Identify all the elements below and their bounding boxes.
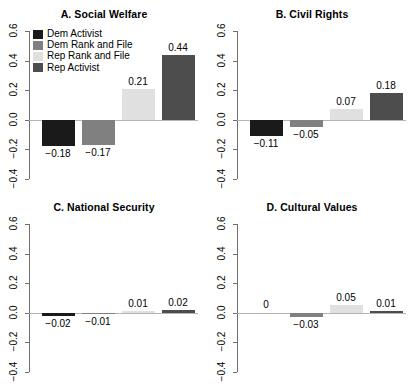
legend-label: Dem Rank and File: [47, 40, 133, 50]
y-axis-tick: [233, 283, 237, 284]
y-axis-tick: [233, 149, 237, 150]
legend-label: Dem Activist: [47, 29, 102, 39]
bar-value-label: −0.17: [77, 147, 120, 158]
legend-swatch-icon: [33, 63, 43, 72]
bar-value-label: 0.18: [365, 80, 408, 91]
y-axis-tick-label: −0.2: [8, 136, 19, 162]
y-axis-tick-label: 0.4: [8, 47, 19, 73]
y-axis-tick-label: 0.4: [216, 240, 227, 266]
legend-item: Rep Activist: [33, 62, 133, 73]
y-axis-tick-label: 0.0: [8, 299, 19, 325]
bar-value-label: −0.11: [245, 138, 288, 149]
y-axis-tick-label: 0.4: [216, 47, 227, 73]
legend-item: Dem Activist: [33, 29, 133, 40]
chart-panel: B. Civil Rights0.60.40.20.0−0.2−0.4−0.11…: [208, 0, 416, 193]
y-axis-tick-label: −0.2: [216, 329, 227, 355]
y-axis-tick: [25, 31, 29, 32]
y-axis-tick: [233, 61, 237, 62]
bar: [162, 310, 195, 313]
y-axis-tick: [25, 179, 29, 180]
y-axis-tick-label: 0.6: [8, 18, 19, 44]
bar: [162, 55, 195, 120]
panel-title: B. Civil Rights: [208, 8, 416, 20]
y-axis-tick: [25, 149, 29, 150]
legend-swatch-icon: [33, 52, 43, 61]
y-axis-tick-label: −0.4: [8, 166, 19, 192]
y-axis-tick-label: 0.6: [8, 211, 19, 237]
plot-area: 0.60.40.20.0−0.2−0.4−0.11−0.050.070.18: [246, 31, 406, 179]
bar-value-label: 0.01: [117, 298, 160, 309]
legend-swatch-icon: [33, 41, 43, 50]
bar-value-label: 0.05: [325, 292, 368, 303]
y-axis-tick-label: 0.2: [8, 77, 19, 103]
y-axis-tick-label: 0.2: [216, 77, 227, 103]
y-axis-tick-label: 0.2: [216, 270, 227, 296]
y-axis-tick: [233, 372, 237, 373]
y-axis-tick-label: 0.6: [216, 18, 227, 44]
bar: [122, 311, 155, 313]
y-axis-tick: [233, 90, 237, 91]
bar: [82, 313, 115, 315]
y-axis-tick: [25, 224, 29, 225]
y-axis-tick-label: −0.2: [216, 136, 227, 162]
bar: [42, 120, 75, 147]
bar: [122, 89, 155, 120]
y-axis-tick-label: −0.4: [216, 166, 227, 192]
bar-value-label: 0.01: [365, 298, 408, 309]
panel-title: C. National Security: [0, 201, 208, 213]
bar-value-label: −0.02: [37, 318, 80, 329]
legend-label: Rep Activist: [47, 63, 99, 73]
y-axis-tick: [25, 342, 29, 343]
y-axis-tick: [233, 179, 237, 180]
legend-swatch-icon: [33, 30, 43, 39]
legend-item: Rep Rank and File: [33, 51, 133, 62]
bar-value-label: 0: [245, 299, 288, 310]
bar: [330, 305, 363, 312]
bar-value-label: 0.02: [157, 297, 200, 308]
y-axis-tick: [25, 61, 29, 62]
bar-value-label: −0.03: [285, 319, 328, 330]
y-axis-line: [29, 224, 30, 372]
y-axis-tick: [25, 254, 29, 255]
y-axis-tick: [25, 90, 29, 91]
chart-panel: C. National Security0.60.40.20.0−0.2−0.4…: [0, 193, 208, 386]
y-axis-tick: [233, 342, 237, 343]
y-axis-tick-label: −0.2: [8, 329, 19, 355]
bar: [250, 120, 283, 136]
bar: [330, 109, 363, 119]
bar-value-label: −0.18: [37, 148, 80, 159]
y-axis-line: [237, 224, 238, 372]
figure-root: A. Social Welfare0.60.40.20.0−0.2−0.4−0.…: [0, 0, 416, 387]
y-axis-tick-label: 0.0: [8, 106, 19, 132]
y-axis-tick-label: −0.4: [8, 359, 19, 385]
y-axis-line: [237, 31, 238, 179]
y-axis-tick-label: 0.2: [8, 270, 19, 296]
bar: [42, 313, 75, 316]
panel-title: D. Cultural Values: [208, 201, 416, 213]
y-axis-tick: [233, 224, 237, 225]
plot-area: 0.60.40.20.0−0.2−0.40−0.030.050.01: [246, 224, 406, 372]
bar: [370, 93, 403, 120]
legend-label: Rep Rank and File: [47, 51, 130, 61]
y-axis-line: [29, 31, 30, 179]
chart-panel: D. Cultural Values0.60.40.20.0−0.2−0.40−…: [208, 193, 416, 386]
legend-item: Dem Rank and File: [33, 40, 133, 51]
y-axis-tick-label: 0.4: [8, 240, 19, 266]
y-axis-tick-label: 0.0: [216, 299, 227, 325]
bar-value-label: 0.07: [325, 96, 368, 107]
y-axis-tick: [25, 372, 29, 373]
bar-value-label: −0.05: [285, 129, 328, 140]
bar: [290, 120, 323, 127]
y-axis-tick-label: 0.0: [216, 106, 227, 132]
bar-value-label: 0.44: [157, 42, 200, 53]
y-axis-tick: [25, 283, 29, 284]
bar-value-label: 0.21: [117, 76, 160, 87]
y-axis-tick-label: 0.6: [216, 211, 227, 237]
legend: Dem ActivistDem Rank and FileRep Rank an…: [33, 29, 133, 73]
panel-title: A. Social Welfare: [0, 8, 208, 20]
bar: [82, 120, 115, 145]
y-axis-tick-label: −0.4: [216, 359, 227, 385]
chart-panel: A. Social Welfare0.60.40.20.0−0.2−0.4−0.…: [0, 0, 208, 193]
plot-area: 0.60.40.20.0−0.2−0.4−0.02−0.010.010.02: [38, 224, 198, 372]
bar: [290, 313, 323, 317]
